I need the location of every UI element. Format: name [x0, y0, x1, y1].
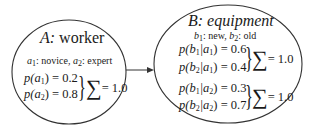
node-b-prob-1: p(b1|a1) = 0.6: [179, 43, 246, 56]
arrowhead-icon: [147, 67, 154, 73]
node-b-prob-4: p(b2|a2) = 0.7: [179, 99, 246, 112]
node-b-sum-2: ∑= 1.0: [252, 86, 294, 108]
node-b-sum-1: ∑= 1.0: [252, 48, 294, 70]
node-a-values-desc: a1: novice, a2: expert: [27, 56, 112, 66]
node-b-prob-3: p(b1|a2) = 0.3: [179, 82, 246, 95]
node-a-prob-1: p(a1) = 0.2: [24, 72, 78, 85]
node-a-sum: ∑= 1.0: [86, 77, 128, 99]
node-b-title: B: equipment: [188, 13, 274, 29]
node-b-prob-2: p(b2|a1) = 0.4: [179, 61, 246, 74]
node-a-brace: }: [78, 71, 86, 101]
node-a-title: A: worker: [40, 30, 104, 46]
node-a-prob-2: p(a2) = 0.8: [24, 88, 78, 101]
